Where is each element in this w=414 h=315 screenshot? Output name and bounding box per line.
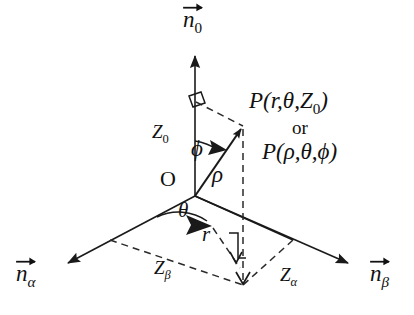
height-label-z0-subscript: 0 (163, 132, 169, 146)
height-label-z0-symbol: Z (152, 121, 163, 142)
point-label-spherical: P(ρ,θ,ϕ) (262, 140, 337, 163)
projection-label-zbeta-subscript: β (165, 268, 171, 282)
axis-label-nbeta: n β (370, 262, 389, 289)
projection-label-zalpha-subscript: α (291, 275, 298, 289)
diagram-canvas (0, 0, 414, 315)
angle-label-phi: ϕ (191, 137, 203, 160)
dashed-construction-group (110, 102, 293, 285)
angle-label-theta: θ (178, 200, 188, 221)
axis-label-n0-subscript: 0 (195, 19, 203, 36)
point-label-cylindrical: P(r,θ,Z0) (249, 89, 328, 116)
radial-label-r: r (202, 224, 210, 245)
radial-label-rho: ρ (212, 163, 223, 186)
conjunction-label: or (292, 118, 308, 137)
height-label-z0: Z0 (152, 122, 169, 145)
projection-label-zbeta-symbol: Z (154, 257, 165, 278)
coordinate-diagram: n 0 n α n β O Z0 (0, 0, 414, 315)
origin-label: O (160, 168, 176, 190)
dashed-top-to-point (196, 102, 243, 126)
axis-label-nbeta-symbol: n (370, 261, 382, 286)
axis-label-n0: n 0 (183, 8, 202, 35)
point-label-cylindrical-main: P(r,θ,Z (249, 88, 313, 113)
projection-label-zalpha-symbol: Z (280, 264, 291, 285)
projection-label-zalpha: Zα (280, 265, 297, 288)
axis-label-nalpha: n α (16, 262, 35, 289)
axis-label-nalpha-subscript: α (28, 273, 36, 290)
right-angle-marker-upper (189, 92, 205, 107)
axis-label-n0-symbol: n (183, 7, 195, 32)
axis-label-nalpha-symbol: n (16, 261, 28, 286)
point-label-cylindrical-close: ) (320, 88, 328, 113)
axis-label-nbeta-subscript: β (382, 273, 390, 290)
projection-label-zbeta: Zβ (154, 258, 171, 281)
axis-nalpha-line (68, 196, 195, 263)
